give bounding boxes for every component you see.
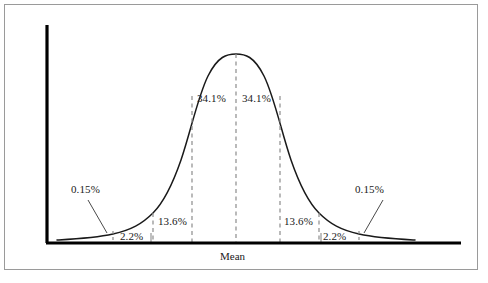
label-right-1to2-percent: 13.6% (284, 215, 313, 227)
label-left-2to3-percent: 2.2% (120, 230, 143, 242)
leader-line-right-outer (364, 200, 383, 233)
label-right-2to3-percent: 2.2% (323, 230, 346, 242)
label-left-0to1-percent: 34.1% (197, 92, 226, 104)
normal-curve-chart (0, 0, 488, 283)
normal-distribution-figure: 0.15% 2.2% 13.6% 34.1% 34.1% 13.6% 2.2% … (0, 0, 488, 283)
label-left-1to2-percent: 13.6% (158, 215, 187, 227)
label-right-outer-percent: 0.15% (355, 183, 384, 195)
label-left-outer-percent: 0.15% (71, 183, 100, 195)
x-axis-mean-label: Mean (220, 250, 245, 262)
leader-line-left-outer (88, 200, 107, 233)
label-right-0to1-percent: 34.1% (242, 92, 271, 104)
